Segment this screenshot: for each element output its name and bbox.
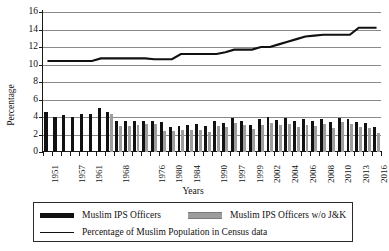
black-line-swatch-icon: [40, 232, 74, 234]
x-tick-label: 1997: [238, 165, 247, 183]
x-tick-label: 1999: [256, 165, 265, 183]
x-tick-label: 2004: [291, 165, 300, 183]
grey-bar-swatch-icon: [188, 212, 222, 219]
x-tick-label: 1961: [95, 165, 104, 183]
x-tick-label: 1976: [158, 165, 167, 183]
x-tick-label: 1957: [78, 165, 87, 183]
legend-label-1: Muslim IPS Officers w/o J&K: [230, 211, 346, 221]
y-tick-label: 10: [29, 60, 39, 70]
x-tick-label: 1951: [51, 165, 60, 183]
legend-item-muslim-population: Percentage of Muslim Population in Censu…: [40, 228, 267, 238]
y-axis-title: Percentage: [6, 70, 16, 140]
x-tick-label: 2010: [344, 165, 353, 183]
x-tick-label: 2013: [362, 165, 371, 183]
x-tick-label: 2002: [273, 165, 282, 183]
x-tick-label: 2016: [380, 165, 389, 183]
legend-label-0: Muslim IPS Officers: [82, 211, 161, 221]
x-tick-label: 1984: [193, 165, 202, 183]
x-tick-label: 1968: [122, 165, 131, 183]
legend-item-muslim-ips-officers: Muslim IPS Officers: [40, 211, 188, 221]
y-tick-label: 12: [29, 42, 39, 52]
y-tick-label: 2: [33, 130, 38, 140]
x-tick-label: 2006: [309, 165, 318, 183]
y-tick-label: 6: [33, 95, 38, 105]
plot-area: 0246810121416: [43, 12, 381, 152]
x-tick-label: 1990: [220, 165, 229, 183]
legend-row-1: Muslim IPS Officers Muslim IPS Officers …: [40, 207, 346, 224]
y-tick-label: 14: [29, 25, 39, 35]
legend-item-muslim-ips-officers-wo-jk: Muslim IPS Officers w/o J&K: [188, 211, 346, 221]
legend: Muslim IPS Officers Muslim IPS Officers …: [33, 202, 353, 242]
x-tick-label: 1980: [175, 165, 184, 183]
legend-label-2: Percentage of Muslim Population in Censu…: [82, 228, 267, 238]
y-tick-label: 8: [33, 77, 38, 87]
y-tick-label: 4: [33, 112, 38, 122]
legend-row-2: Percentage of Muslim Population in Censu…: [40, 224, 346, 241]
muslim-population-line: [47, 28, 376, 61]
line-series-layer: [43, 12, 381, 152]
x-tick-label: 2008: [327, 165, 336, 183]
x-axis-title: Years: [0, 186, 386, 196]
y-tick-label: 16: [29, 7, 39, 17]
black-bar-swatch-icon: [40, 213, 74, 218]
